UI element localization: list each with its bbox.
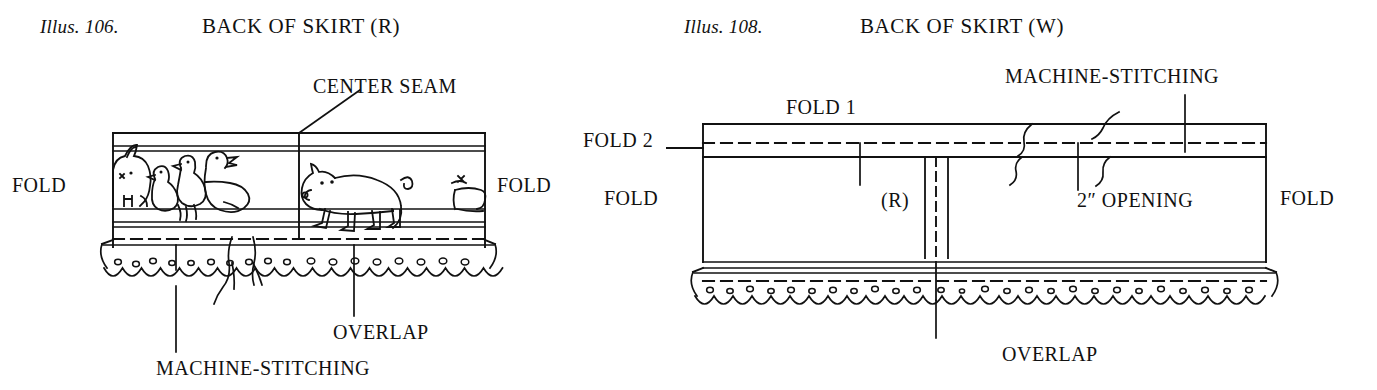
diagram-artwork	[0, 0, 1377, 390]
hook-opening-left	[1010, 157, 1022, 185]
motif-duck-2	[173, 156, 206, 221]
diagram-108	[667, 95, 1278, 338]
motif-duck-1	[148, 166, 178, 211]
scallop-trim-108	[695, 296, 1265, 304]
motif-goose	[205, 152, 250, 212]
motif-rabbit	[113, 145, 151, 206]
diagram-106	[101, 90, 503, 352]
hook-machine-stitch-curve	[1092, 112, 1119, 139]
illustration-page: Illus. 106. BACK OF SKIRT (R) CENTER SEA…	[0, 0, 1377, 390]
eyelet-holes-106	[115, 258, 469, 267]
hook-opening-left-top	[1018, 124, 1032, 156]
motif-pig-partial	[452, 176, 486, 211]
scallop-trim-106	[104, 268, 503, 276]
hook-opening-right	[1096, 157, 1110, 186]
motif-pig	[302, 164, 413, 231]
leader-center-seam	[299, 90, 360, 133]
eyelet-holes-108	[707, 286, 1253, 293]
